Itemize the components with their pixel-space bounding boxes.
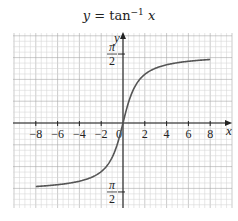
x-tick-label: 4	[164, 127, 170, 141]
x-tick-label: −2	[95, 127, 108, 141]
y-axis-label: y	[112, 30, 120, 45]
chart-plot: −8−6−4−202468π2π2xy	[0, 0, 238, 221]
y-tick-label-den: 2	[109, 54, 115, 68]
x-tick-label: 2	[142, 127, 148, 141]
x-tick-label: 6	[185, 127, 191, 141]
tick-labels: −8−6−4−202468π2π2xy	[29, 30, 232, 206]
y-tick-label-den: 2	[109, 192, 115, 206]
x-tick-label: 8	[207, 127, 213, 141]
x-tick-label: −8	[29, 127, 42, 141]
x-tick-label: −4	[73, 127, 86, 141]
x-tick-label: −6	[51, 127, 64, 141]
y-tick-label-num: π	[109, 178, 116, 192]
x-axis-label: x	[225, 123, 232, 138]
